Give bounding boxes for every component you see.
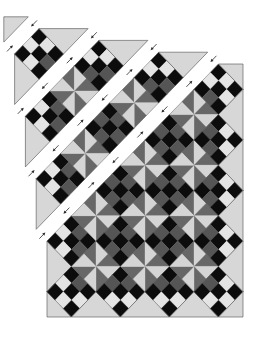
quilt-assembly-figure [0,0,259,337]
quilt-assembly-diagram [0,0,259,337]
